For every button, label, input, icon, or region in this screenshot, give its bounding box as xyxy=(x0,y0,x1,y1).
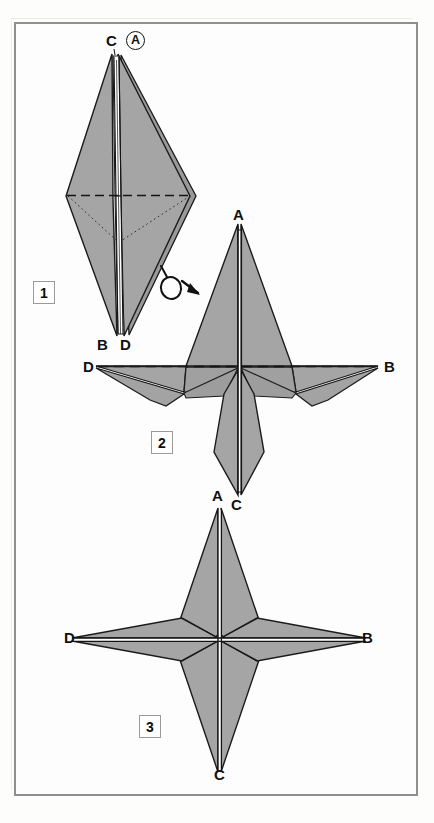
step2-label-A: A xyxy=(233,207,244,222)
step1-label-C: C xyxy=(106,33,117,48)
step-number-box-2: 2 xyxy=(151,431,173,454)
step2-label-D: D xyxy=(83,359,94,374)
step2-upper-right-panel xyxy=(241,224,292,366)
turn-over-arrow-icon xyxy=(158,266,200,302)
step-3-figure xyxy=(72,508,366,772)
step1-label-c-leader xyxy=(114,49,115,55)
step2-label-B: B xyxy=(384,359,395,374)
step3-label-A: A xyxy=(212,488,223,503)
step2-label-C: C xyxy=(231,497,242,512)
step1-label-B: B xyxy=(97,337,108,352)
step1-label-D: D xyxy=(120,337,131,352)
step3-label-C: C xyxy=(214,767,225,782)
origami-diagram-canvas xyxy=(0,0,434,823)
diagram-page: C A B D 1 A D B C 2 A D B C 3 xyxy=(0,0,434,823)
step3-label-D: D xyxy=(64,630,75,645)
step-1-figure xyxy=(66,49,196,336)
step1-label-A-circled: A xyxy=(126,31,145,50)
step3-label-B: B xyxy=(362,630,373,645)
step-number-box-1: 1 xyxy=(33,281,55,304)
step-number-box-3: 3 xyxy=(139,715,161,738)
step2-upper-left-panel xyxy=(186,224,238,366)
